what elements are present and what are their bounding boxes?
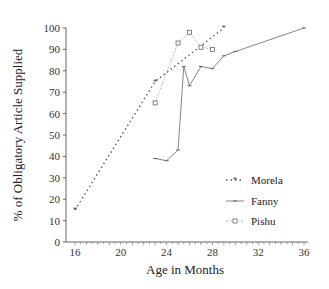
star-marker-icon: *: [73, 205, 78, 215]
series-fanny: [153, 28, 306, 161]
legend-item-pishu: Pishu: [226, 215, 276, 227]
y-tick-label: 70: [49, 86, 61, 98]
square-marker-icon: [153, 101, 157, 105]
y-tick-label: 100: [44, 22, 61, 34]
x-tick-label: 24: [161, 246, 173, 258]
x-tick-label: 20: [115, 246, 127, 258]
square-marker-icon: [210, 47, 214, 51]
star-marker-icon: *: [153, 77, 158, 87]
x-tick-label: 36: [299, 246, 311, 258]
square-marker-icon: [233, 219, 237, 223]
y-tick-label: 50: [49, 129, 61, 141]
legend-item-morela: *Morela: [226, 174, 283, 186]
square-marker-icon: [188, 30, 192, 34]
y-tick-label: 60: [49, 108, 61, 120]
series-line: [75, 28, 224, 210]
square-marker-icon: [176, 41, 180, 45]
line-chart: 0102030405060708090100162024283236 *** *…: [0, 0, 329, 289]
y-tick-label: 30: [49, 172, 61, 184]
series-group: ***: [73, 23, 306, 215]
y-tick-label: 10: [49, 215, 61, 227]
legend-label: Pishu: [251, 215, 276, 227]
legend-item-fanny: Fanny: [226, 195, 279, 207]
series-morela: ***: [73, 23, 227, 215]
y-tick-label: 90: [49, 43, 61, 55]
x-tick-label: 16: [70, 246, 82, 258]
y-axis-title: % of Obligatory Article Supplied: [10, 48, 25, 221]
y-tick-label: 80: [49, 65, 61, 77]
y-tick-label: 0: [55, 236, 61, 248]
y-tick-label: 20: [49, 193, 61, 205]
star-marker-icon: *: [233, 175, 238, 185]
square-marker-icon: [199, 45, 203, 49]
star-marker-icon: *: [222, 23, 227, 33]
x-tick-label: 32: [253, 246, 264, 258]
series-line: [155, 28, 304, 161]
x-tick-label: 28: [207, 246, 219, 258]
legend: *MorelaFannyPishu: [226, 174, 283, 227]
x-axis-title: Age in Months: [146, 262, 224, 277]
legend-label: Fanny: [251, 195, 279, 207]
legend-label: Morela: [251, 174, 283, 186]
y-tick-label: 40: [49, 150, 61, 162]
